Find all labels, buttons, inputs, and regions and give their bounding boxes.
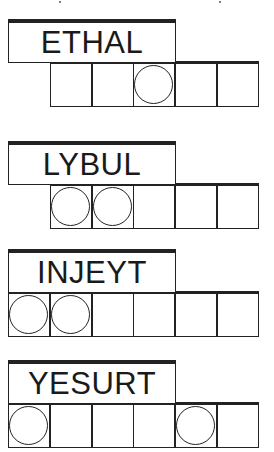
letter-cell[interactable] [8, 293, 50, 337]
circled-letter-marker-icon [9, 295, 48, 334]
circled-letter-marker-icon [51, 187, 90, 226]
letter-cell[interactable] [175, 293, 217, 337]
letter-cell[interactable] [50, 404, 92, 448]
scrambled-word-box: INJEYT [8, 249, 176, 293]
letter-cell[interactable] [133, 63, 175, 107]
jumble-word-2: LYBUL [0, 141, 274, 233]
letter-cell[interactable] [92, 293, 134, 337]
scrambled-word: INJEYT [37, 257, 147, 288]
letter-cell[interactable] [133, 293, 175, 337]
letter-cell[interactable] [8, 404, 50, 448]
letter-cell[interactable] [175, 185, 217, 229]
circled-letter-marker-icon [93, 187, 132, 226]
stray-mark [59, 1, 61, 3]
letter-cell[interactable] [133, 185, 175, 229]
circled-letter-marker-icon [9, 406, 48, 445]
scrambled-word-box: LYBUL [8, 141, 176, 185]
letter-cell[interactable] [50, 63, 92, 107]
circled-letter-marker-icon [176, 406, 215, 445]
letter-cell[interactable] [217, 404, 259, 448]
circled-letter-marker-icon [51, 295, 90, 334]
letter-cell[interactable] [92, 185, 134, 229]
scrambled-word: LYBUL [43, 149, 141, 180]
letter-cell[interactable] [50, 293, 92, 337]
scrambled-word: ETHAL [41, 27, 143, 58]
stray-mark [219, 1, 221, 3]
scrambled-word-box: ETHAL [8, 19, 176, 63]
jumble-word-4: YESURT [0, 360, 274, 452]
letter-cell[interactable] [175, 404, 217, 448]
letter-cell[interactable] [217, 293, 259, 337]
letter-cell[interactable] [217, 185, 259, 229]
letter-cell[interactable] [175, 63, 217, 107]
jumble-word-3: INJEYT [0, 249, 274, 341]
letter-cell[interactable] [92, 63, 134, 107]
jumble-word-1: ETHAL [0, 19, 274, 111]
scrambled-word-box: YESURT [8, 360, 176, 404]
scrambled-word: YESURT [28, 368, 156, 399]
circled-letter-marker-icon [134, 65, 173, 104]
letter-cell[interactable] [50, 185, 92, 229]
letter-cell[interactable] [217, 63, 259, 107]
letter-cell[interactable] [92, 404, 134, 448]
letter-cell[interactable] [133, 404, 175, 448]
